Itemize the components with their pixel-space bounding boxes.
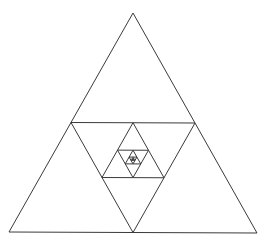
nested-triangles-figure: [0, 0, 275, 244]
diagram-canvas: [0, 0, 275, 244]
triangle-group: [9, 13, 257, 233]
triangle-level-8: [133, 159, 134, 160]
